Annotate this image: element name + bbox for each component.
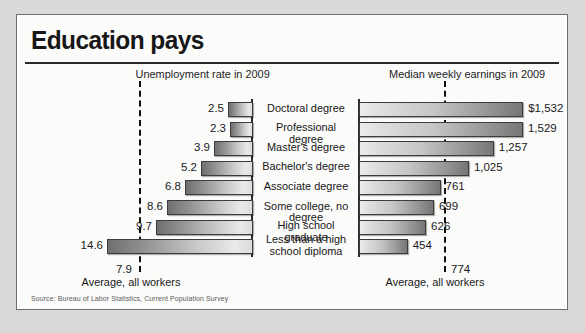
earnings-bar xyxy=(359,161,469,176)
category-label: Associate degree xyxy=(258,181,355,193)
unemployment-bar xyxy=(156,220,253,235)
earnings-bar xyxy=(359,220,426,235)
unemployment-bar xyxy=(167,200,253,215)
earnings-bar-row: 1,257 xyxy=(359,140,568,158)
earnings-bar xyxy=(359,141,494,156)
earnings-bar-row: 1,529 xyxy=(359,121,568,139)
unemployment-value-label: 14.6 xyxy=(81,239,103,251)
unemployment-value-label: 3.9 xyxy=(194,141,210,153)
earnings-value-label: 1,025 xyxy=(474,161,503,173)
left-average-label: Average, all workers xyxy=(82,276,181,288)
right-average-label: Average, all workers xyxy=(386,276,485,288)
earnings-value-label: 699 xyxy=(439,200,458,212)
left-average-value: 7.9 xyxy=(116,263,132,275)
unemployment-bar-row: 14.6 xyxy=(17,238,253,256)
earnings-value-label: 1,529 xyxy=(528,122,557,134)
unemployment-value-label: 5.2 xyxy=(181,161,197,173)
unemployment-bar xyxy=(228,102,253,117)
category-label: Master's degree xyxy=(258,142,355,154)
unemployment-value-label: 9.7 xyxy=(136,220,152,232)
earnings-bar xyxy=(359,239,408,254)
unemployment-bar xyxy=(230,122,253,137)
unemployment-bar-row: 3.9 xyxy=(17,140,253,158)
unemployment-bar-row: 5.2 xyxy=(17,160,253,178)
earnings-bar-row: 626 xyxy=(359,219,568,237)
unemployment-value-label: 2.3 xyxy=(210,122,226,134)
earnings-bar-row: 761 xyxy=(359,179,568,197)
unemployment-value-label: 2.5 xyxy=(208,102,224,114)
right-average-value: 774 xyxy=(451,263,470,275)
earnings-bar-row: 454 xyxy=(359,238,568,256)
earnings-bar xyxy=(359,122,523,137)
category-label: Bachelor's degree xyxy=(258,161,355,173)
unemployment-bar xyxy=(201,161,253,176)
earnings-bar-row: $1,532 xyxy=(359,101,568,119)
earnings-value-label: 454 xyxy=(413,239,432,251)
unemployment-bar-row: 9.7 xyxy=(17,219,253,237)
unemployment-bar-row: 8.6 xyxy=(17,199,253,217)
earnings-value-label: 1,257 xyxy=(499,141,528,153)
earnings-bar xyxy=(359,180,441,195)
earnings-bar-row: 1,025 xyxy=(359,160,568,178)
earnings-value-label: 761 xyxy=(446,180,465,192)
earnings-value-label: 626 xyxy=(431,220,450,232)
source-note: Source: Bureau of Labor Statistics, Curr… xyxy=(31,294,228,303)
unemployment-bar xyxy=(107,239,253,254)
plot-area: 2.5$1,532Doctoral degree2.31,529Professi… xyxy=(17,15,568,310)
unemployment-value-label: 8.6 xyxy=(147,200,163,212)
earnings-bar xyxy=(359,102,523,117)
chart-page: Education pays Unemployment rate in 2009… xyxy=(0,0,585,333)
earnings-bar-row: 699 xyxy=(359,199,568,217)
unemployment-bar xyxy=(214,141,253,156)
earnings-bar xyxy=(359,200,434,215)
unemployment-bar-row: 2.5 xyxy=(17,101,253,119)
chart-card: Education pays Unemployment rate in 2009… xyxy=(16,14,568,310)
earnings-value-label: $1,532 xyxy=(528,102,563,114)
unemployment-bar xyxy=(185,180,253,195)
unemployment-bar-row: 2.3 xyxy=(17,121,253,139)
unemployment-value-label: 6.8 xyxy=(165,180,181,192)
category-label: Less than a highschool diploma xyxy=(258,234,355,257)
category-label: Doctoral degree xyxy=(258,103,355,115)
unemployment-bar-row: 6.8 xyxy=(17,179,253,197)
